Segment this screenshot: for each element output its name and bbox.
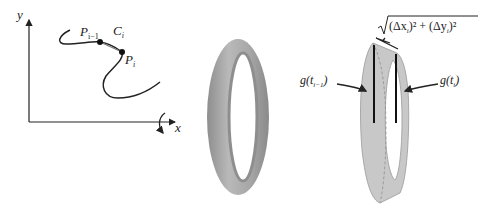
surface-of-revolution — [207, 39, 269, 195]
label-g-t-curr: g(ti) — [440, 73, 459, 89]
band-inner-hole — [385, 60, 402, 180]
x-axis-label: x — [174, 120, 181, 135]
curve-panel: y x Pi−1 Ci Pi — [15, 7, 181, 135]
figure-canvas: y x Pi−1 Ci Pi (Δxi)² + (Δyi)² g(ti−1) g… — [0, 0, 489, 215]
label-p-curr: Pi — [124, 52, 135, 69]
label-chord: Ci — [113, 23, 124, 40]
label-p-prev: Pi−1 — [79, 24, 99, 41]
arc-length-formula: (Δxi)² + (Δyi)² — [389, 19, 457, 35]
chord-segment — [100, 42, 122, 52]
rotation-arrow-icon — [159, 113, 165, 133]
label-g-t-prev: g(ti−1) — [300, 73, 328, 89]
band-slice: (Δxi)² + (Δyi)² g(ti−1) g(ti) — [300, 16, 478, 203]
arrow-right-label — [405, 84, 438, 91]
y-axis-label: y — [15, 7, 23, 22]
curve-c — [60, 30, 160, 98]
